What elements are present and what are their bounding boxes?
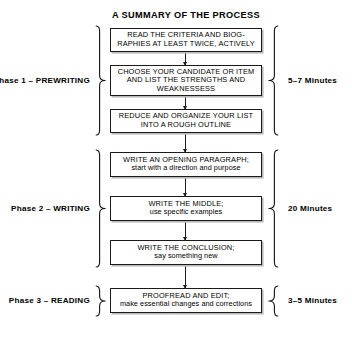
flow-arrow-2 xyxy=(185,96,186,109)
phase-brace-left-3 xyxy=(95,285,106,317)
phase-label-2: Phase 2 – WRITING xyxy=(11,204,90,213)
process-step-line: WEAKNESSESS xyxy=(157,85,215,94)
flow-arrow-5 xyxy=(185,221,186,240)
process-step-box: READ THE CRITERIA AND BIOG-RAPHIES AT LE… xyxy=(110,28,262,52)
process-flow-diagram: A SUMMARY OF THE PROCESS READ THE CRITER… xyxy=(0,0,352,339)
process-step-box: PROOFREAD AND EDIT;make essential change… xyxy=(110,288,262,313)
page-title: A SUMMARY OF THE PROCESS xyxy=(105,10,267,21)
process-step-box: REDUCE AND ORGANIZE YOUR LISTINTO A ROUG… xyxy=(110,109,262,133)
phase-brace-left-1 xyxy=(95,25,106,136)
process-step-line: INTO A ROUGH OUTLINE xyxy=(141,121,231,130)
process-step-box: WRITE THE MIDDLE;use specific examples xyxy=(110,196,262,221)
phase-duration-1: 5–7 Minutes xyxy=(288,76,337,85)
process-step-line: use specific examples xyxy=(150,208,222,217)
phase-label-1: Phase 1 – PREWRITING xyxy=(0,76,90,85)
phase-brace-right-3 xyxy=(268,285,279,317)
phase-brace-right-2 xyxy=(268,149,279,268)
process-step-line: RAPHIES AT LEAST TWICE, ACTIVELY xyxy=(117,40,255,49)
phase-brace-left-2 xyxy=(95,149,106,268)
phase-label-3: Phase 3 – READING xyxy=(9,296,90,305)
phase-brace-right-1 xyxy=(268,25,279,136)
process-step-line: start with a direction and purpose xyxy=(131,164,240,173)
process-step-line: make essential changes and corrections xyxy=(120,300,252,309)
flow-arrow-1 xyxy=(185,52,186,65)
process-step-line: say something new xyxy=(154,252,217,261)
phase-duration-3: 3–5 Minutes xyxy=(288,296,337,305)
process-step-box: CHOOSE YOUR CANDIDATE OR ITEMAND LIST TH… xyxy=(110,65,262,96)
flow-arrow-4 xyxy=(185,177,186,196)
flow-arrow-6 xyxy=(185,265,186,288)
phase-duration-2: 20 Minutes xyxy=(288,204,332,213)
process-step-box: WRITE AN OPENING PARAGRAPH;start with a … xyxy=(110,152,262,177)
process-step-box: WRITE THE CONCLUSION;say something new xyxy=(110,240,262,265)
flow-arrow-3 xyxy=(185,133,186,152)
